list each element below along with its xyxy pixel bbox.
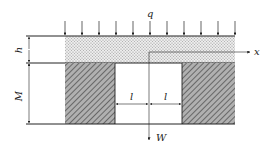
left-coal-pillar [65,63,115,124]
distributed-load-arrows [65,21,235,35]
right-coal-pillar [182,63,235,124]
load-label-q: q [147,8,153,19]
w-axis-label: W [156,132,167,143]
x-axis-label: x [254,46,260,57]
half-span-label-right: l [164,91,167,102]
half-span-label-left: l [130,91,133,102]
stratum-diagram: q h M x W l l [0,0,273,150]
overlying-stratum [65,36,235,63]
seam-height-label-M: M [13,90,24,102]
thickness-label-h: h [13,47,24,53]
